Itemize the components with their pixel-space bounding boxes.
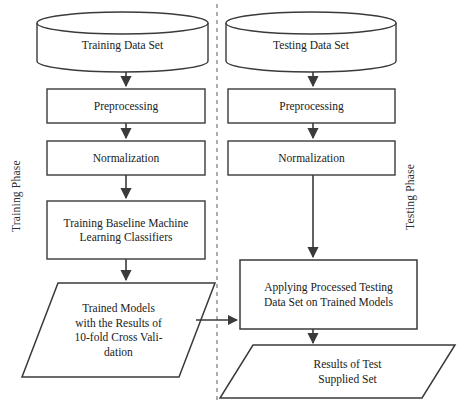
node-training-data-set [37, 12, 208, 72]
node-training-normalization [47, 141, 205, 175]
phase-label-testing: Testing Phase [404, 164, 416, 230]
flowchart-graphics [0, 0, 467, 415]
node-training-preprocessing [47, 89, 205, 123]
node-results-of-test [220, 345, 455, 398]
node-testing-preprocessing [228, 89, 395, 123]
node-testing-normalization [228, 141, 395, 175]
node-trained-models [22, 283, 215, 377]
phase-label-training: Training Phase [10, 160, 22, 232]
node-training-classifiers [47, 201, 205, 259]
node-applying-processed [240, 260, 417, 329]
flowchart-canvas: Training Data Set Preprocessing Normaliz… [0, 0, 467, 415]
node-testing-data-set [226, 12, 396, 72]
